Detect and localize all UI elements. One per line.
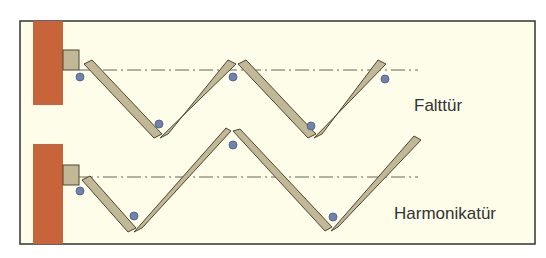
wall-top [33,21,63,105]
hinge-icon [307,122,315,130]
label-falttuer: Falttür [414,96,463,115]
hinge-icon [130,212,138,220]
hinge-icon [229,141,237,149]
door-frame-block-bottom [63,165,79,185]
wall-bottom [33,144,63,244]
hinge-icon [155,120,163,128]
door-diagram: Falttür Harmonikatür [0,0,546,258]
hinge-icon [229,73,237,81]
hinge-icon [329,213,337,221]
hinge-icon [76,187,84,195]
door-frame-block-top [63,50,79,70]
hinge-icon [381,75,389,83]
label-harmonikatuer: Harmonikatür [394,204,496,223]
hinge-icon [76,73,84,81]
